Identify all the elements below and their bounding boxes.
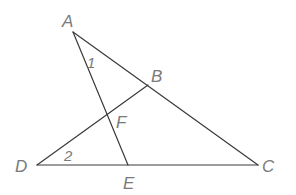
point-label-a: A bbox=[61, 12, 73, 31]
segment-db bbox=[37, 85, 148, 165]
point-label-f: F bbox=[116, 113, 128, 132]
point-label-c: C bbox=[262, 157, 275, 176]
point-label-b: B bbox=[151, 67, 162, 86]
point-label-e: E bbox=[123, 174, 135, 193]
geometry-diagram: A B C D E F 1 2 bbox=[0, 0, 296, 195]
point-label-d: D bbox=[15, 157, 27, 176]
angle-label-2: 2 bbox=[63, 147, 73, 164]
angle-label-1: 1 bbox=[87, 54, 95, 71]
